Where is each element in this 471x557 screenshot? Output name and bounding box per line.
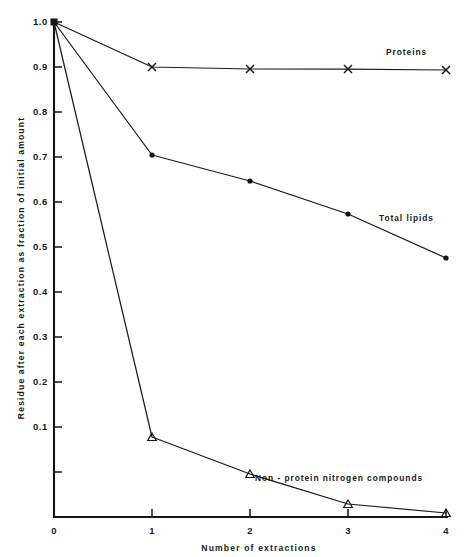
ytick-label: 0.4	[33, 286, 48, 297]
ytick-label: 0.9	[33, 61, 48, 72]
y-axis-title: Residue after each extraction as fractio…	[16, 117, 26, 419]
ytick-label: 0.3	[33, 331, 48, 342]
series-line-non-protein-nitrogen	[54, 22, 446, 513]
x-axis-tick-labels: 0 1 2 3 4	[51, 525, 449, 536]
ytick-label: 1.0	[33, 16, 48, 27]
ytick-label: 0.7	[33, 151, 48, 162]
xtick-label: 4	[443, 525, 449, 536]
xtick-label: 1	[149, 525, 155, 536]
x-axis-ticks	[152, 509, 446, 517]
xtick-label: 0	[51, 525, 56, 536]
series-non-protein-nitrogen: Non - protein nitrogen compounds	[54, 22, 450, 517]
series-total-lipids: Total lipids	[54, 22, 449, 261]
ytick-label: 0.8	[33, 106, 48, 117]
xtick-label: 3	[345, 525, 350, 536]
ytick-label: 0.2	[33, 376, 48, 387]
series-label-proteins: Proteins	[386, 47, 427, 57]
series-line-proteins	[54, 22, 446, 70]
marker-dot	[149, 152, 154, 157]
x-axis-title: Number of extractions	[201, 543, 316, 553]
origin-marker	[51, 19, 58, 26]
marker-dot	[345, 211, 350, 216]
series-proteins: Proteins	[54, 22, 450, 74]
xtick-label: 2	[247, 525, 252, 536]
marker-dot	[247, 178, 252, 183]
y-axis-ticks	[54, 22, 62, 472]
y-axis-tick-labels: 1.0 0.9 0.8 0.7 0.6 0.5 0.4 0.3 0.2 0.1	[33, 16, 48, 432]
series-label-total-lipids: Total lipids	[379, 213, 434, 223]
ytick-label: 0.6	[33, 196, 48, 207]
marker-dot	[443, 255, 448, 260]
line-chart: 1.0 0.9 0.8 0.7 0.6 0.5 0.4 0.3 0.2 0.1 …	[0, 0, 471, 557]
ytick-label: 0.5	[33, 241, 48, 252]
chart-figure: 1.0 0.9 0.8 0.7 0.6 0.5 0.4 0.3 0.2 0.1 …	[0, 0, 471, 557]
series-label-non-protein-nitrogen: Non - protein nitrogen compounds	[255, 473, 423, 483]
ytick-label: 0.1	[33, 421, 48, 432]
